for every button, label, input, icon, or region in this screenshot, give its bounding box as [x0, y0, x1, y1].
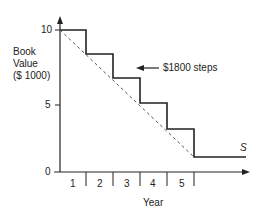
x-tick-3: 3 — [124, 178, 130, 190]
x-tick-4: 4 — [150, 178, 156, 190]
x-axis-label: Year — [143, 197, 163, 209]
y-tick-5: 5 — [45, 99, 51, 111]
y-tick-10: 10 — [41, 24, 52, 36]
chart-plot — [0, 0, 261, 216]
y-label-line3: ($ 1000) — [13, 70, 50, 82]
y-label-line2: Value — [13, 58, 38, 70]
x-tick-2: 2 — [97, 178, 103, 190]
y-tick-0: 0 — [45, 166, 51, 178]
x-tick-1: 1 — [70, 178, 76, 190]
steps-annotation: $1800 steps — [163, 62, 218, 74]
x-tick-5: 5 — [179, 178, 185, 190]
salvage-annotation: S — [240, 142, 247, 154]
y-label-line1: Book — [13, 46, 36, 58]
